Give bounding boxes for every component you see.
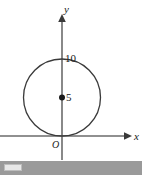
circle-center-dot xyxy=(59,95,65,101)
bottom-bar-chip[interactable] xyxy=(4,164,22,171)
y-axis-arrowhead xyxy=(58,14,66,22)
screenshot-root: y x 10 5 O xyxy=(0,0,142,175)
bottom-gray-bar xyxy=(0,161,142,175)
origin-label: O xyxy=(52,139,59,150)
center-value-label: 5 xyxy=(66,91,72,103)
x-axis-label: x xyxy=(133,130,139,142)
circle-diagram-svg: y x 10 5 O xyxy=(0,0,142,161)
x-axis-arrowhead xyxy=(124,132,132,140)
math-figure: y x 10 5 O xyxy=(0,0,142,161)
y-axis-label: y xyxy=(63,3,69,15)
top-intercept-label: 10 xyxy=(65,52,77,64)
